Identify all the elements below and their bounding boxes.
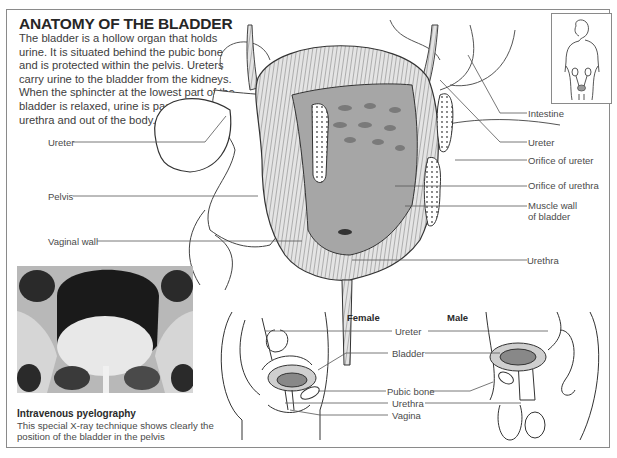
xray-caption-title: Intravenous pyelography <box>17 408 136 419</box>
label-pelvis: Pelvis <box>48 191 73 202</box>
label-ureter-right: Ureter <box>528 137 554 148</box>
label-vagina: Vagina <box>392 410 421 421</box>
female-body-silhouette-icon <box>552 14 611 103</box>
xray-caption-text: This special X-ray technique shows clear… <box>17 420 217 443</box>
label-muscle-wall: Muscle wall <box>528 200 577 211</box>
label-intestine: Intestine <box>528 108 564 119</box>
label-ureter-section: Ureter <box>395 326 421 337</box>
xray-image <box>17 266 193 393</box>
label-pubic-bone: Pubic bone <box>387 386 435 397</box>
label-vaginal-wall: Vaginal wall <box>48 236 98 247</box>
label-of-bladder: of bladder <box>528 211 570 222</box>
label-bladder-section: Bladder <box>392 348 425 359</box>
male-section-title: Male <box>447 312 468 323</box>
label-orifice-of-ureter: Orifice of ureter <box>528 155 593 166</box>
label-urethra-section: Urethra <box>392 398 424 409</box>
label-urethra-main: Urethra <box>527 255 559 266</box>
female-section-title: Female <box>347 312 380 323</box>
inset-body-location <box>551 13 612 104</box>
pelvic-xray-illustration <box>17 266 193 393</box>
label-orifice-of-urethra: Orifice of urethra <box>528 180 599 191</box>
label-ureter-left: Ureter <box>48 137 74 148</box>
